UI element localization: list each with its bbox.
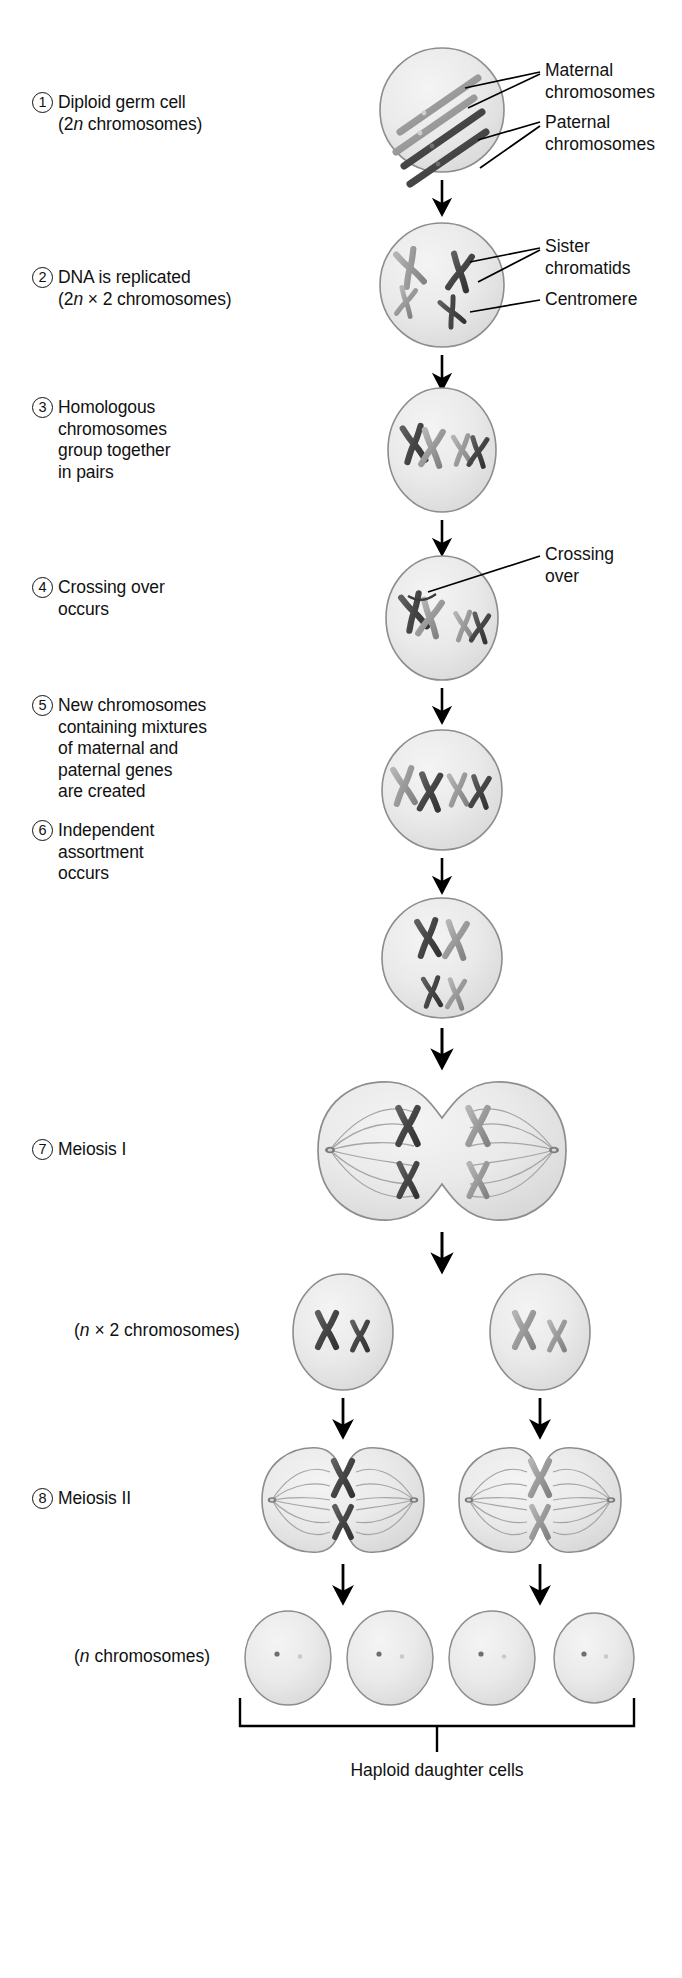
step-5-line-5: are created — [58, 781, 145, 801]
cell-replicated — [380, 223, 504, 347]
cell-meiosis-two-left — [262, 1448, 424, 1552]
step-1-label: 1 Diploid germ cell (2n chromosomes) — [32, 92, 202, 135]
n-chromosomes-label: (n chromosomes) — [74, 1646, 210, 1668]
cell-recombined — [382, 730, 502, 850]
step-1-number: 1 — [32, 92, 53, 113]
step-6-label: 6 Independent assortment occurs — [32, 820, 154, 885]
leader-lines-stage1 — [465, 72, 540, 168]
step-5-line-1: New chromosomes — [58, 695, 206, 715]
cell-daughter-right — [490, 1274, 590, 1390]
step-5-line-3: of maternal and — [58, 738, 178, 758]
callout-crossing-line-2: over — [545, 566, 579, 586]
leader-line-crossing-over — [428, 556, 540, 592]
cell-diploid-germ — [380, 48, 504, 184]
callout-paternal-chromosomes: Paternal chromosomes — [545, 112, 655, 155]
haploid-bracket — [240, 1698, 634, 1752]
n-times-2-chromosomes-label: (n × 2 chromosomes) — [74, 1320, 240, 1342]
step-5-label: 5 New chromosomes containing mixtures of… — [32, 695, 207, 803]
step-6-line-1: Independent — [58, 820, 154, 840]
callout-maternal-line-1: Maternal — [545, 60, 613, 80]
callout-maternal-line-2: chromosomes — [545, 82, 655, 102]
step-3-line-2: chromosomes — [58, 419, 167, 439]
step-2-line-2: (2n × 2 chromosomes) — [58, 289, 232, 309]
step-4-number: 4 — [32, 577, 53, 598]
meiosis-diagram: 1 Diploid germ cell (2n chromosomes) 2 D… — [0, 0, 682, 1978]
step-2-number: 2 — [32, 267, 53, 288]
cell-crossing-over — [386, 556, 498, 680]
callout-paternal-line-1: Paternal — [545, 112, 610, 132]
step-3-line-1: Homologous — [58, 397, 155, 417]
haploid-daughter-cells-caption: Haploid daughter cells — [237, 1760, 637, 1781]
step-5-line-2: containing mixtures — [58, 717, 207, 737]
callout-crossing-line-1: Crossing — [545, 544, 614, 564]
step-4-line-1: Crossing over — [58, 577, 165, 597]
step-8-label: 8Meiosis II — [32, 1488, 131, 1510]
callout-sister-line-2: chromatids — [545, 258, 631, 278]
step-8-number: 8 — [32, 1488, 53, 1509]
step-5-line-4: paternal genes — [58, 760, 172, 780]
cell-haploid-1 — [245, 1611, 331, 1705]
cell-meiosis-one — [318, 1082, 566, 1220]
step-4-line-2: occurs — [58, 599, 109, 619]
step-5-number: 5 — [32, 695, 53, 716]
cell-independent-assortment — [382, 898, 502, 1018]
step-8-line-1: Meiosis II — [58, 1488, 131, 1510]
callout-crossing-over: Crossing over — [545, 544, 614, 587]
step-6-line-2: assortment — [58, 842, 144, 862]
step-3-label: 3 Homologous chromosomes group together … — [32, 397, 170, 483]
cell-meiosis-two-right — [459, 1448, 621, 1552]
callout-centromere-line-1: Centromere — [545, 289, 637, 309]
callout-paternal-line-2: chromosomes — [545, 134, 655, 154]
step-3-number: 3 — [32, 397, 53, 418]
step-2-line-1: DNA is replicated — [58, 267, 191, 287]
step-4-label: 4 Crossing over occurs — [32, 577, 165, 620]
step-6-number: 6 — [32, 820, 53, 841]
step-7-number: 7 — [32, 1139, 53, 1160]
step-6-line-3: occurs — [58, 863, 109, 883]
step-1-line-2: (2n chromosomes) — [58, 114, 202, 134]
callout-sister-chromatids: Sister chromatids — [545, 236, 631, 279]
cell-haploid-3 — [449, 1611, 535, 1705]
step-2-label: 2 DNA is replicated (2n × 2 chromosomes) — [32, 267, 232, 310]
step-1-line-1: Diploid germ cell — [58, 92, 186, 112]
cell-haploid-2 — [347, 1611, 433, 1705]
cell-daughter-left — [293, 1274, 393, 1390]
leader-lines-stage2 — [470, 248, 540, 312]
step-7-label: 7Meiosis I — [32, 1139, 126, 1161]
callout-maternal-chromosomes: Maternal chromosomes — [545, 60, 655, 103]
step-7-line-1: Meiosis I — [58, 1139, 126, 1161]
step-3-line-3: group together — [58, 440, 170, 460]
callout-centromere: Centromere — [545, 289, 637, 311]
step-3-line-4: in pairs — [58, 462, 114, 482]
cell-homologous-pairs — [388, 388, 496, 512]
cell-haploid-4 — [554, 1613, 634, 1703]
callout-sister-line-1: Sister — [545, 236, 590, 256]
